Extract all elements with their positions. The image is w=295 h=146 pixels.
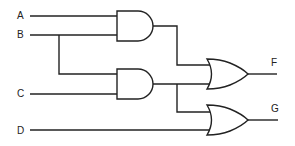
wire-b-branch	[59, 35, 117, 74]
output-label-g: G	[271, 103, 279, 114]
or-gate-g	[207, 105, 248, 135]
logic-circuit-diagram: A B C D F G	[0, 0, 295, 146]
input-label-c: C	[17, 88, 24, 99]
and-gate-2	[117, 69, 153, 99]
input-label-b: B	[17, 29, 24, 40]
wire-and1-to-or1	[153, 26, 213, 65]
input-label-a: A	[17, 10, 24, 21]
and-gate-1	[117, 11, 153, 41]
input-label-d: D	[17, 125, 24, 136]
output-label-f: F	[271, 57, 277, 68]
or-gate-f	[207, 59, 248, 89]
